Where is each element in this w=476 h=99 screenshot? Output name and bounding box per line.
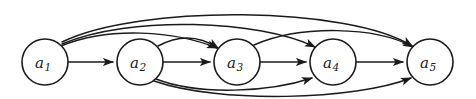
node-a4: a4 <box>310 39 356 85</box>
graph-canvas: a1a2a3a4a5 <box>0 0 476 99</box>
graph-figure: a1a2a3a4a5 <box>0 0 476 99</box>
node-a3: a3 <box>214 39 260 85</box>
edge-a2-to-a5 <box>154 78 411 96</box>
node-a5: a5 <box>407 39 453 85</box>
node-a1: a1 <box>22 39 68 85</box>
node-a2: a2 <box>117 39 163 85</box>
